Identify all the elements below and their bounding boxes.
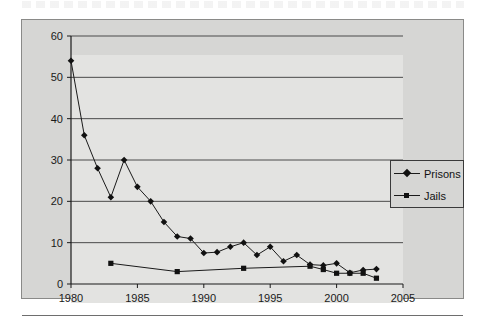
x-tick-label: 1990	[192, 292, 216, 304]
series-prisons	[68, 58, 380, 277]
chart-legend: Prisons Jails	[390, 160, 464, 208]
data-point-diamond	[333, 260, 340, 267]
data-point-square	[334, 271, 339, 276]
data-point-square	[307, 264, 312, 269]
data-point-square	[175, 269, 180, 274]
x-tick-label: 2005	[391, 292, 415, 304]
data-point-diamond	[108, 194, 115, 201]
y-tick-label: 60	[51, 30, 63, 42]
series-line	[71, 61, 376, 273]
x-tick-label: 1980	[59, 292, 83, 304]
legend-label-jails: Jails	[420, 190, 446, 202]
data-point-diamond	[81, 132, 88, 139]
x-tick-label: 1985	[125, 292, 149, 304]
data-point-square	[241, 266, 246, 271]
page-root: 0102030405060 198019851990199520002005 P…	[0, 0, 486, 324]
gridlines	[71, 36, 403, 284]
y-tick-labels: 0102030405060	[51, 30, 63, 290]
data-point-diamond	[68, 58, 75, 65]
x-tick-label: 2000	[324, 292, 348, 304]
scan-bleed-artifact	[22, 1, 464, 8]
data-point-diamond	[94, 165, 101, 172]
y-tick-label: 0	[57, 278, 63, 290]
y-tick-label: 50	[51, 71, 63, 83]
data-point-diamond	[121, 157, 128, 164]
data-point-square	[361, 271, 366, 276]
data-point-diamond	[293, 252, 300, 259]
y-tick-label: 20	[51, 195, 63, 207]
legend-item-prisons: Prisons	[391, 163, 463, 185]
footer-divider	[22, 315, 463, 316]
data-point-diamond	[373, 266, 380, 273]
legend-item-jails: Jails	[391, 185, 463, 207]
y-tick-label: 10	[51, 237, 63, 249]
data-point-square	[374, 276, 379, 281]
x-tick-label: 1995	[258, 292, 282, 304]
data-point-diamond	[227, 244, 234, 251]
square-marker-icon	[394, 190, 420, 202]
legend-label-prisons: Prisons	[420, 168, 461, 180]
diamond-marker-icon	[394, 168, 420, 180]
data-point-square	[321, 267, 326, 272]
y-tick-label: 40	[51, 113, 63, 125]
y-tick-label: 30	[51, 154, 63, 166]
data-point-square	[347, 271, 352, 276]
data-point-square	[108, 261, 113, 266]
data-point-diamond	[214, 249, 221, 256]
chart-frame: 0102030405060 198019851990199520002005 P…	[21, 19, 464, 299]
